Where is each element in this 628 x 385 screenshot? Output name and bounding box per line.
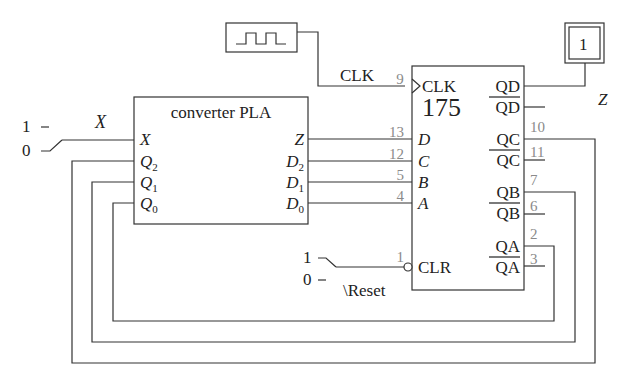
register-clr-label: CLR [418, 258, 452, 277]
clock-wire-label: CLK [340, 66, 375, 85]
pin-2: 2 [530, 226, 538, 242]
pin-5: 5 [397, 167, 405, 183]
pin-1: 1 [397, 249, 405, 265]
register-output-qc-bar: QC [496, 151, 520, 170]
reset-switch-high-label: 1 [303, 248, 312, 267]
register-output-qd: QD [495, 77, 520, 96]
pin-13: 13 [389, 124, 404, 140]
reset-switch-low-label: 0 [303, 270, 312, 289]
register-input-b: B [418, 173, 429, 192]
pla-output-z: Z [295, 130, 305, 149]
x-input-switch[interactable]: 1 0 [22, 117, 62, 160]
register-output-qc: QC [496, 130, 520, 149]
clock-pin-number: 9 [396, 71, 404, 87]
pin-12: 12 [389, 146, 404, 162]
x-switch-high-label: 1 [22, 117, 31, 136]
qd-output-wire [524, 63, 585, 86]
pin-7: 7 [530, 172, 538, 188]
z-output-label: Z [598, 90, 608, 109]
clock-generator[interactable] [226, 23, 297, 52]
output-indicator-value: 1 [579, 35, 588, 54]
pin-11: 11 [530, 144, 544, 160]
pla-title: converter PLA [171, 103, 272, 122]
register-output-qb-bar: QB [496, 204, 520, 223]
reset-switch-lever [318, 258, 336, 267]
reset-switch[interactable]: 1 0 [303, 248, 336, 289]
register-175: 9 CLK 175 13 D 12 C 5 B 4 A 1 CLR QD QD … [389, 66, 545, 290]
output-indicator: 1 [565, 23, 604, 63]
register-input-c: C [418, 152, 430, 171]
register-input-d: D [417, 130, 431, 149]
register-input-a: A [417, 194, 429, 213]
x-switch-lever [41, 140, 62, 151]
register-output-qd-bar: QD [495, 98, 520, 117]
converter-pla: converter PLA X Q2 Q1 Q0 Z D2 D1 D0 [134, 97, 308, 224]
reset-label: \Reset [343, 281, 386, 300]
register-output-qa-bar: QA [495, 258, 520, 277]
x-input-label: X [94, 112, 107, 132]
register-output-qb: QB [496, 183, 520, 202]
register-output-qa: QA [495, 237, 520, 256]
circuit-diagram: CLK 1 Z 1 0 X converter PLA X Q2 Q1 Q0 Z… [0, 0, 628, 385]
pin-10: 10 [530, 119, 545, 135]
clr-inversion-bubble [404, 263, 412, 271]
register-part-number: 175 [422, 93, 461, 122]
pin-3: 3 [530, 251, 538, 267]
clock-generator-box [226, 23, 297, 52]
pin-6: 6 [530, 198, 538, 214]
x-switch-low-label: 0 [22, 141, 31, 160]
pla-input-x: X [139, 130, 151, 149]
pin-4: 4 [397, 188, 405, 204]
